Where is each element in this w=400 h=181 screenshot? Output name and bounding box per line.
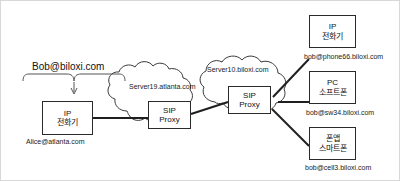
sip-proxy-atlanta[interactable]: SIP Proxy [148,101,191,129]
atlanta-cloud-label: Server19.atlanta.com [129,83,196,90]
bob-ip-phone[interactable]: IP 전화기 [309,15,356,48]
sip-proxy-atlanta-line2: Proxy [159,115,179,124]
bob-pc-softphone[interactable]: PC 소프트폰 [309,71,356,104]
sip-proxy-biloxi-line2: Proxy [239,100,259,109]
sip-proxy-biloxi[interactable]: SIP Proxy [228,86,271,114]
bob-smartphone-line1: 폰앱 [326,134,340,143]
bob-pc-softphone-line2: 소프트폰 [319,88,347,97]
bob-pc-softphone-line1: PC [327,78,338,87]
link-proxy1-to-proxy2 [191,102,228,114]
bob-ip-phone-line2: 전화기 [322,32,343,41]
alice-ip-phone-line1: IP [64,109,72,118]
alice-ip-phone[interactable]: IP 전화기 [42,101,93,135]
bob-smartphone-line2: 스마트폰 [319,144,347,153]
sip-network-diagram: Server19.atlanta.com Server10.biloxi.com… [0,0,400,181]
alice-ip-phone-caption: Alice@atlanta.com [26,138,84,145]
bob-smartphone-caption: bob@cell3.biloxi.com [305,164,371,171]
bob-pc-softphone-caption: bob@sw34.biloxi.com [306,109,374,116]
sip-proxy-atlanta-line1: SIP [163,106,176,115]
link-proxy2-to-smartphone [272,109,309,146]
sip-proxy-biloxi-line1: SIP [243,91,256,100]
bob-identity-brace-label: Bob@biloxi.com [32,61,104,72]
biloxi-cloud-label: Server10.biloxi.com [207,66,268,73]
bob-smartphone[interactable]: 폰앱 스마트폰 [309,127,356,160]
bob-ip-phone-line1: IP [329,22,337,31]
alice-ip-phone-line2: 전화기 [57,118,78,127]
bob-ip-phone-caption: bob@phone66.biloxi.com [304,53,383,60]
